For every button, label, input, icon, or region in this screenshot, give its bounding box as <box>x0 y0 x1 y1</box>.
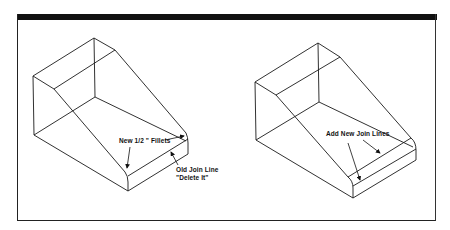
label-new-fillets: New 1/2 " Fillets <box>119 137 170 144</box>
label-delete-it: "Delete It" <box>176 174 209 181</box>
label-old-join-line: Old Join Line <box>176 166 218 173</box>
isometric-drawings <box>0 0 450 230</box>
left-part-drawing <box>33 38 188 191</box>
label-add-new-join-lines: Add New Join Lines <box>326 130 390 137</box>
right-part-drawing <box>255 43 416 198</box>
